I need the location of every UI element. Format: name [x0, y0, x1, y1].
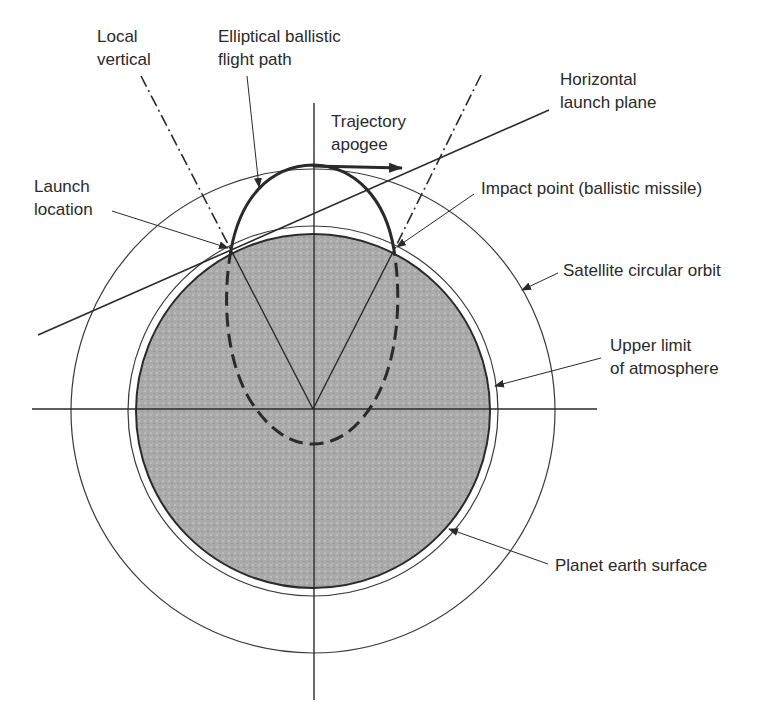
leader-elliptical-path — [247, 76, 259, 187]
apogee-velocity-arrow — [313, 166, 402, 168]
local-vertical-launch — [141, 76, 231, 250]
label-earth-surface-text: Planet earth surface — [555, 554, 707, 577]
label-satellite-orbit-text: Satellite circular orbit — [563, 259, 721, 282]
label-elliptical-path-line2: flight path — [218, 48, 341, 71]
label-earth-surface: Planet earth surface — [555, 554, 707, 577]
label-trajectory-apogee: Trajectory apogee — [331, 110, 406, 156]
label-trajectory-apogee-line2: apogee — [331, 133, 406, 156]
label-upper-atmosphere: Upper limit of atmosphere — [610, 334, 719, 380]
label-satellite-orbit: Satellite circular orbit — [563, 259, 721, 282]
label-horizontal-plane: Horizontal launch plane — [560, 68, 656, 114]
label-horizontal-plane-line2: launch plane — [560, 91, 656, 114]
local-vertical-impact — [394, 75, 481, 250]
leader-satellite-orbit — [522, 273, 558, 290]
label-elliptical-path: Elliptical ballistic flight path — [218, 25, 341, 71]
label-upper-atmosphere-line1: Upper limit — [610, 334, 719, 357]
label-launch-location-line1: Launch — [34, 175, 93, 198]
label-launch-location: Launch location — [34, 175, 93, 221]
label-impact-point: Impact point (ballistic missile) — [481, 177, 702, 200]
label-trajectory-apogee-line1: Trajectory — [331, 110, 406, 133]
label-local-vertical-line1: Local — [97, 25, 151, 48]
earth-disc — [136, 234, 490, 588]
label-impact-point-text: Impact point (ballistic missile) — [481, 177, 702, 200]
label-launch-location-line2: location — [34, 198, 93, 221]
label-local-vertical-line2: vertical — [97, 48, 151, 71]
leader-atmosphere — [495, 358, 601, 386]
label-local-vertical: Local vertical — [97, 25, 151, 71]
label-horizontal-plane-line1: Horizontal — [560, 68, 656, 91]
label-elliptical-path-line1: Elliptical ballistic — [218, 25, 341, 48]
label-upper-atmosphere-line2: of atmosphere — [610, 357, 719, 380]
leader-earth-surface — [449, 529, 548, 564]
leader-launch-location — [112, 211, 228, 248]
